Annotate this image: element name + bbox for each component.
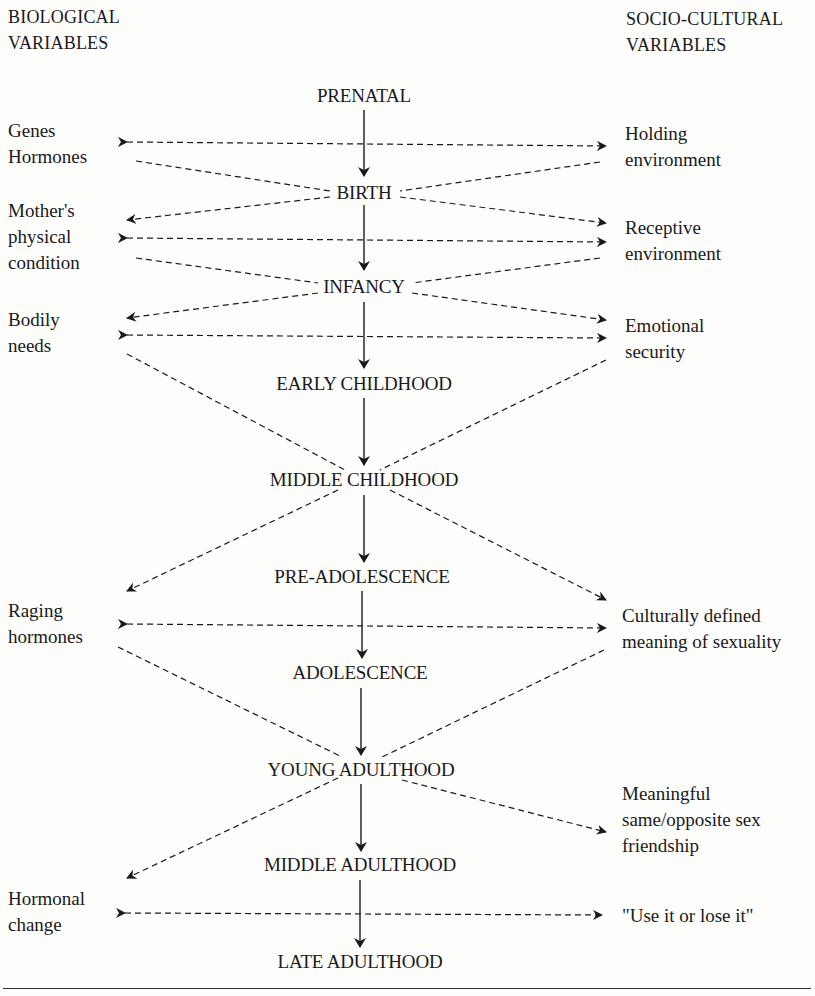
- label-line: "Use it or lose it": [622, 903, 754, 929]
- header-line: SOCIO-CULTURAL: [626, 6, 783, 32]
- label-line: Bodily: [8, 307, 60, 333]
- socio-emotional-security: Emotional security: [625, 313, 704, 365]
- stage-infancy: INFANCY: [321, 275, 407, 299]
- stage-young-adulthood: YOUNG ADULTHOOD: [268, 758, 455, 782]
- label-line: condition: [8, 250, 80, 276]
- socio-receptive-environment: Receptive environment: [625, 215, 721, 267]
- label-line: environment: [625, 147, 721, 173]
- label-line: physical: [8, 224, 80, 250]
- header-line: VARIABLES: [626, 32, 783, 58]
- label-line: meaning of sexuality: [622, 629, 781, 655]
- label-line: Culturally defined: [622, 603, 781, 629]
- label-line: Mother's: [8, 198, 80, 224]
- stage-adolescence: ADOLESCENCE: [292, 661, 427, 685]
- socio-culturally-defined-sexuality: Culturally defined meaning of sexuality: [622, 603, 781, 655]
- socio-cultural-variables-header: SOCIO-CULTURAL VARIABLES: [626, 6, 783, 58]
- label-line: Emotional: [625, 313, 704, 339]
- socio-use-it-or-lose-it: "Use it or lose it": [622, 903, 754, 929]
- label-line: Hormonal: [8, 886, 85, 912]
- label-line: change: [8, 912, 85, 938]
- stage-early-childhood: EARLY CHILDHOOD: [276, 372, 451, 396]
- label-line: Meaningful: [622, 781, 761, 807]
- bio-mothers-physical-condition: Mother's physical condition: [8, 198, 80, 276]
- bio-bodily-needs: Bodily needs: [8, 307, 60, 359]
- label-line: Receptive: [625, 215, 721, 241]
- stage-middle-adulthood: MIDDLE ADULTHOOD: [264, 853, 456, 877]
- label-line: friendship: [622, 833, 761, 859]
- stage-middle-childhood: MIDDLE CHILDHOOD: [270, 468, 458, 492]
- label-line: Holding: [625, 121, 721, 147]
- stage-arrows: [360, 110, 364, 947]
- stage-pre-adolescence: PRE-ADOLESCENCE: [274, 565, 449, 589]
- bio-raging-hormones: Raging hormones: [8, 598, 83, 650]
- bio-genes-hormones: Genes Hormones: [8, 118, 87, 170]
- bio-hormonal-change: Hormonal change: [8, 886, 85, 938]
- label-line: Genes: [8, 118, 87, 144]
- socio-holding-environment: Holding environment: [625, 121, 721, 173]
- label-line: hormones: [8, 624, 83, 650]
- biological-variables-header: BIOLOGICAL VARIABLES: [8, 4, 120, 56]
- stage-late-adulthood: LATE ADULTHOOD: [278, 950, 443, 974]
- bottom-rule: [3, 988, 811, 989]
- dashed-links: [118, 142, 606, 915]
- label-line: Hormones: [8, 144, 87, 170]
- stage-birth: BIRTH: [335, 181, 394, 205]
- label-line: same/opposite sex: [622, 807, 761, 833]
- label-line: Raging: [8, 598, 83, 624]
- socio-meaningful-friendship: Meaningful same/opposite sex friendship: [622, 781, 761, 859]
- stage-prenatal: PRENATAL: [317, 84, 411, 108]
- header-line: VARIABLES: [8, 30, 120, 56]
- label-line: environment: [625, 241, 721, 267]
- label-line: security: [625, 339, 704, 365]
- header-line: BIOLOGICAL: [8, 4, 120, 30]
- label-line: needs: [8, 333, 60, 359]
